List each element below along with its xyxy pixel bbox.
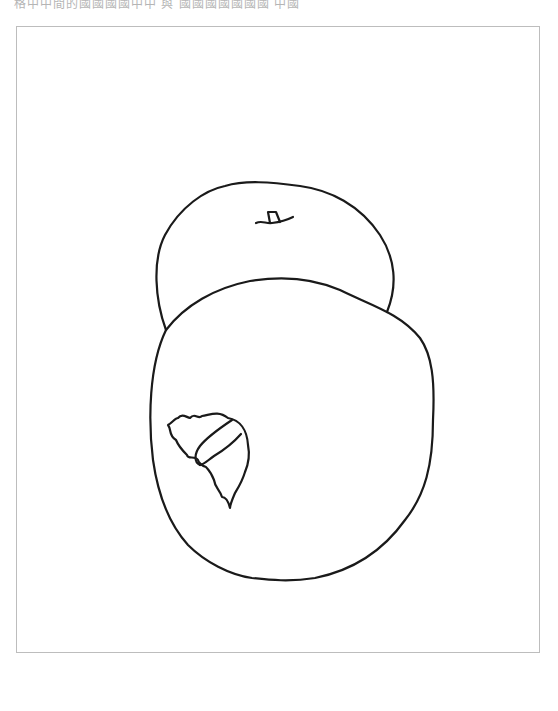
back-fruit-outline [156,182,393,330]
blemish-inner-line-1 [196,420,233,465]
front-fruit-outline [150,278,433,580]
fruit-drawing [0,0,558,711]
stem-icon [256,217,293,223]
